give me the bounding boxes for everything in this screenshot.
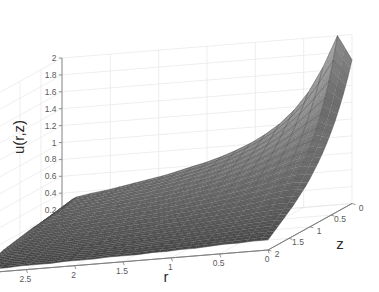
r-tick-label: 1.5: [116, 266, 128, 276]
r-tick-label: 0: [265, 254, 270, 264]
r-tick-label: 2.5: [19, 274, 31, 284]
z-tick-label: 1.6: [45, 87, 57, 97]
r-tick-label: 0.5: [213, 258, 225, 268]
z-tick-label: 0: [52, 222, 57, 232]
surface-plot-canvas: 00.20.40.60.811.21.41.61.8232.521.510.50…: [0, 0, 379, 292]
z-tick-label: 0.6: [45, 171, 57, 181]
z-tick-label: 1: [52, 138, 57, 148]
r-tick-label: 2: [71, 270, 76, 280]
z-axis-tick-label: 0: [359, 203, 364, 213]
z-tick-label: 2: [52, 53, 57, 63]
z-axis-tick-label: 0.5: [334, 214, 346, 224]
figure-3d-surface-plot: 00.20.40.60.811.21.41.61.8232.521.510.50…: [0, 0, 379, 292]
r-tick-label: 1: [168, 262, 173, 272]
z-tick-label: 0.8: [45, 154, 57, 164]
z-axis-tick-label: 2: [275, 249, 280, 259]
z-axis-tick-label: 1.5: [292, 237, 304, 247]
z-tick-label: 0.4: [45, 188, 57, 198]
z-axis-tick-label: 1: [317, 226, 322, 236]
z-tick-label: 0.2: [45, 205, 57, 215]
z-tick-label: 1.2: [45, 121, 57, 131]
z-tick-label: 1.8: [45, 70, 57, 80]
z-tick-label: 1.4: [45, 104, 57, 114]
